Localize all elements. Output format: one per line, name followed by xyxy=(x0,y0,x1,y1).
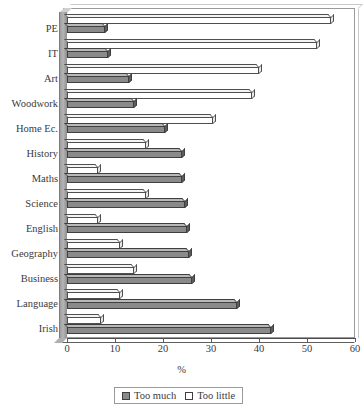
bar-end-cap xyxy=(108,48,111,58)
legend-item-too-little: Too little xyxy=(185,390,235,401)
bar-too-much-6 xyxy=(67,176,182,183)
bar-end-cap xyxy=(182,173,185,183)
bar-too-much-7 xyxy=(67,201,185,208)
bar-too-much-3 xyxy=(67,101,134,108)
x-tick-0 xyxy=(67,338,68,342)
category-axis-wall xyxy=(59,12,67,342)
bar-front-face xyxy=(67,277,192,284)
category-label-maths: Maths xyxy=(0,173,58,184)
bar-group-art xyxy=(67,62,355,87)
bar-end-cap xyxy=(129,73,132,83)
x-tick-label-40: 40 xyxy=(239,343,279,354)
bar-front-face xyxy=(67,26,105,33)
category-label-history: History xyxy=(0,148,58,159)
bar-end-cap xyxy=(185,198,188,208)
bar-too-much-1 xyxy=(67,51,108,58)
bar-group-woodwork xyxy=(67,87,355,112)
category-label-irish: Irish xyxy=(0,323,58,334)
bar-group-english xyxy=(67,213,355,238)
x-tick-30 xyxy=(211,338,212,342)
x-tick-label-30: 30 xyxy=(191,343,231,354)
bar-too-much-2 xyxy=(67,76,129,83)
category-label-home-ec: Home Ec. xyxy=(0,123,58,134)
bar-too-much-11 xyxy=(67,302,237,309)
bar-end-cap xyxy=(192,274,195,284)
bar-front-face xyxy=(67,201,185,208)
x-tick-label-20: 20 xyxy=(143,343,183,354)
category-label-business: Business xyxy=(0,273,58,284)
bar-group-language xyxy=(67,288,355,313)
x-tick-label-10: 10 xyxy=(95,343,135,354)
chart-legend: Too much Too little xyxy=(114,387,243,404)
bar-group-home-ec xyxy=(67,112,355,137)
bar-front-face xyxy=(67,76,129,83)
bar-group-history xyxy=(67,137,355,162)
category-label-woodwork: Woodwork xyxy=(0,98,58,109)
bar-end-cap xyxy=(187,223,190,233)
category-label-geography: Geography xyxy=(0,248,58,259)
bar-end-cap xyxy=(317,39,320,49)
x-tick-label-50: 50 xyxy=(287,343,327,354)
bar-front-face xyxy=(67,226,187,233)
x-tick-40 xyxy=(259,338,260,342)
bar-end-cap xyxy=(134,264,137,274)
bar-too-much-8 xyxy=(67,226,187,233)
bar-end-cap xyxy=(271,324,274,334)
bar-group-business xyxy=(67,263,355,288)
bar-end-cap xyxy=(252,89,255,99)
bar-end-cap xyxy=(120,289,123,299)
bar-end-cap xyxy=(331,14,334,24)
category-label-art: Art xyxy=(0,73,58,84)
bar-end-cap xyxy=(101,314,104,324)
bar-front-face xyxy=(67,101,134,108)
category-label-it: IT xyxy=(0,48,58,59)
bar-group-science xyxy=(67,188,355,213)
category-label-english: English xyxy=(0,223,58,234)
bar-end-cap xyxy=(189,248,192,258)
bar-group-pe xyxy=(67,12,355,37)
x-tick-label-0: 0 xyxy=(47,343,87,354)
bar-front-face xyxy=(67,126,165,133)
much-swatch-icon xyxy=(122,392,130,400)
value-axis-title: % xyxy=(0,364,363,375)
bar-too-much-9 xyxy=(67,251,189,258)
x-tick-label-60: 60 xyxy=(335,343,363,354)
x-tick-50 xyxy=(307,338,308,342)
bar-too-much-4 xyxy=(67,126,165,133)
legend-label-too-much: Too much xyxy=(134,390,176,401)
bar-front-face xyxy=(67,151,182,158)
category-label-pe: PE xyxy=(0,23,58,34)
bar-end-cap xyxy=(213,114,216,124)
x-tick-60 xyxy=(355,338,356,342)
bar-end-cap xyxy=(182,148,185,158)
bar-end-cap xyxy=(259,64,262,74)
bar-end-cap xyxy=(105,23,108,33)
bar-end-cap xyxy=(134,98,137,108)
legend-label-too-little: Too little xyxy=(197,390,235,401)
legend-item-too-much: Too much xyxy=(122,390,176,401)
bar-front-face xyxy=(67,302,237,309)
bar-front-face xyxy=(67,51,108,58)
bar-end-cap xyxy=(237,299,240,309)
bar-front-face xyxy=(67,327,271,334)
plot-area xyxy=(67,12,355,338)
bar-front-face xyxy=(67,176,182,183)
x-tick-20 xyxy=(163,338,164,342)
bar-group-maths xyxy=(67,162,355,187)
bar-too-much-10 xyxy=(67,277,192,284)
bar-group-geography xyxy=(67,238,355,263)
category-label-science: Science xyxy=(0,198,58,209)
bar-too-much-12 xyxy=(67,327,271,334)
plot-frame-right-shadow xyxy=(355,8,359,342)
bar-end-cap xyxy=(165,123,168,133)
bar-chart: PEITArtWoodworkHome Ec.HistoryMathsScien… xyxy=(0,0,363,415)
bar-group-irish xyxy=(67,313,355,338)
bar-too-much-0 xyxy=(67,26,105,33)
bar-too-much-5 xyxy=(67,151,182,158)
category-label-language: Language xyxy=(0,298,58,309)
x-tick-10 xyxy=(115,338,116,342)
little-swatch-icon xyxy=(185,392,193,400)
bar-group-it xyxy=(67,37,355,62)
bar-front-face xyxy=(67,251,189,258)
